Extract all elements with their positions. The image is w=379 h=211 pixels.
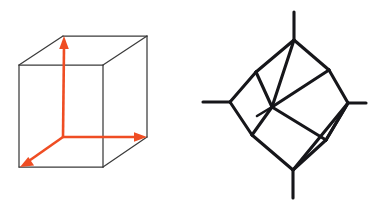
z-axis-line — [63, 47, 64, 137]
graph-edge-center-to-inner-bottom-left — [252, 107, 272, 135]
graph-edge-center-to-inner-bottom-right — [272, 107, 326, 140]
figure-root — [0, 0, 379, 211]
cube-edge-connect-top-right — [103, 36, 147, 65]
coordinate-axes — [20, 36, 147, 167]
cube-edge-connect-top-left — [19, 36, 63, 65]
graph-edge-inner-top-right-to-top — [294, 40, 329, 70]
cube-with-axes-svg — [0, 0, 190, 211]
cube-edge-connect-bottom-right — [103, 137, 147, 167]
graph-edge-inner-bottom-left-to-bottom — [252, 135, 293, 170]
graph-stub-edges — [203, 12, 366, 198]
cube-with-axes-panel — [0, 0, 190, 211]
polyhedral-graph-panel — [190, 0, 379, 211]
polyhedral-graph-svg — [190, 0, 379, 211]
graph-edge-bottom-to-right — [293, 103, 348, 170]
x-axis-arrowhead-icon — [134, 132, 147, 142]
cube-wireframe — [19, 36, 147, 167]
graph-edge-center-to-inner-top-right — [272, 70, 329, 107]
graph-edge-right-to-inner-top-right — [329, 70, 348, 103]
graph-edge-inner-top-left-to-left — [230, 72, 256, 102]
y-axis-line — [30, 137, 64, 161]
graph-edge-inner-top-left-to-center — [256, 72, 272, 107]
graph-edge-left-to-inner-bottom-left — [230, 102, 252, 135]
graph-inner-edges — [252, 40, 348, 170]
